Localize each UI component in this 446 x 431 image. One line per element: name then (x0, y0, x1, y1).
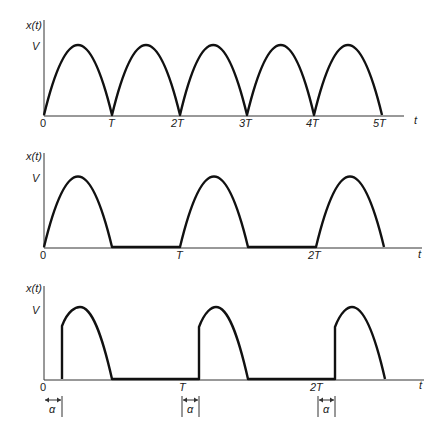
alpha-marker-1: α (45, 396, 62, 417)
tick-0: 0 (40, 117, 46, 129)
tick-2T: 2T (170, 117, 185, 129)
tick-T: T (176, 249, 184, 261)
y-axis-label: x(t) (25, 282, 42, 294)
svg-text:α: α (187, 403, 194, 415)
y-axis-label: x(t) (25, 150, 42, 162)
peak-label: V (32, 304, 41, 316)
tick-5T: 5T (373, 117, 387, 129)
tick-0: 0 (40, 381, 46, 393)
rectifier-waveforms-figure: x(t) V t 0 T 2T 3T 4T 5T x(t) V t 0 T 2T… (0, 0, 446, 431)
tick-0: 0 (40, 249, 46, 261)
tick-T: T (108, 117, 116, 129)
tick-3T: 3T (239, 117, 253, 129)
waveform (44, 45, 382, 115)
tick-4T: 4T (306, 117, 320, 129)
alpha-marker-2: α (182, 396, 199, 417)
peak-label: V (32, 172, 41, 184)
x-axis-label: t (418, 248, 422, 260)
svg-text:α: α (323, 403, 330, 415)
tick-2T: 2T (309, 381, 324, 393)
chart-phase-controlled: x(t) V t 0 T 2T α α α (25, 282, 424, 417)
waveform (62, 307, 385, 379)
peak-label: V (32, 40, 41, 52)
chart-half-wave: x(t) V t 0 T 2T (25, 150, 422, 261)
waveform (44, 177, 384, 248)
tick-2T: 2T (307, 249, 322, 261)
y-axis-label: x(t) (25, 19, 42, 31)
tick-T: T (179, 381, 187, 393)
svg-text:α: α (49, 403, 56, 415)
x-axis-label: t (419, 379, 423, 391)
chart-full-wave: x(t) V t 0 T 2T 3T 4T 5T (25, 19, 418, 129)
alpha-marker-3: α (318, 396, 335, 417)
x-axis-label: t (414, 114, 418, 126)
